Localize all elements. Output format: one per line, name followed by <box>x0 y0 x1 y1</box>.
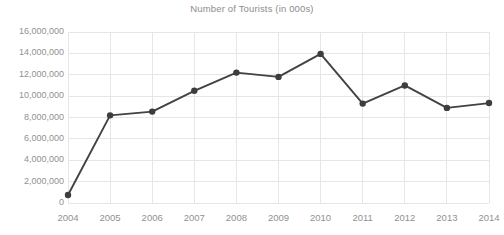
x-axis-tick-label: 2011 <box>352 212 372 223</box>
x-axis-tick-label: 2004 <box>57 212 78 223</box>
x-axis-tick-label: 2012 <box>394 212 415 223</box>
x-axis-tick-label: 2007 <box>184 212 205 223</box>
x-axis-tick-label: 2009 <box>268 212 289 223</box>
x-axis-tick-label: 2010 <box>310 212 331 223</box>
x-axis-tick-labels: 2004200520062007200820092010201120122013… <box>0 0 504 235</box>
chart-container: Number of Tourists (in 000s) 02,000,0004… <box>0 0 504 235</box>
x-axis-tick-label: 2008 <box>226 212 247 223</box>
x-axis-tick-label: 2014 <box>478 212 499 223</box>
x-axis-tick-label: 2005 <box>100 212 121 223</box>
x-axis-tick-label: 2006 <box>142 212 163 223</box>
x-axis-tick-label: 2013 <box>436 212 457 223</box>
